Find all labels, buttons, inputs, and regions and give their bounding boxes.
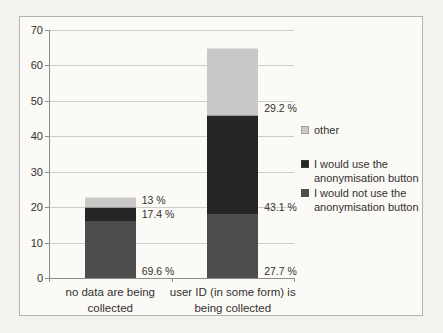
- legend-item: I would not use theanonymisation button: [301, 186, 419, 214]
- gridline: [49, 30, 294, 31]
- x-axis-tick: [294, 278, 295, 282]
- data-label: 43.1 %: [264, 201, 297, 214]
- data-label: 13 %: [142, 194, 166, 207]
- legend-label: I would not use theanonymisation button: [314, 186, 419, 214]
- y-tick-label: 10: [21, 237, 43, 249]
- category-label-line: user ID (in some form) is: [158, 285, 308, 301]
- bar-segment: [85, 221, 136, 278]
- bar-segment: [85, 197, 136, 208]
- y-axis: [49, 30, 50, 278]
- bar-segment: [207, 115, 258, 214]
- y-tick-label: 70: [21, 24, 43, 36]
- data-label: 17.4 %: [142, 208, 175, 221]
- y-tick-label: 30: [21, 166, 43, 178]
- chart-frame: 01020304050607069.6 %17.4 %13 %no data a…: [19, 16, 423, 316]
- legend-label: other: [314, 123, 339, 137]
- bar-segment: [85, 207, 136, 221]
- y-tick-label: 50: [21, 95, 43, 107]
- legend-item: I would use theanonymisation button: [301, 157, 419, 185]
- page: 01020304050607069.6 %17.4 %13 %no data a…: [0, 0, 443, 333]
- legend-swatch-icon: [301, 160, 309, 168]
- legend-swatch-icon: [301, 126, 309, 134]
- bar-segment: [207, 48, 258, 115]
- legend-label: I would use theanonymisation button: [314, 157, 419, 185]
- legend: otherI would use theanonymisation button…: [301, 17, 439, 315]
- category-label-line: being collected: [158, 301, 308, 317]
- legend-item: other: [301, 123, 339, 137]
- data-label: 69.6 %: [142, 265, 175, 278]
- x-axis-tick: [172, 278, 173, 282]
- y-tick-label: 60: [21, 59, 43, 71]
- category-label: user ID (in some form) isbeing collected: [158, 285, 308, 316]
- y-tick-label: 0: [21, 272, 43, 284]
- data-label: 27.7 %: [264, 265, 297, 278]
- bar-segment: [207, 214, 258, 278]
- legend-swatch-icon: [301, 189, 309, 197]
- x-axis-tick: [49, 278, 50, 282]
- y-tick-label: 20: [21, 201, 43, 213]
- data-label: 29.2 %: [264, 102, 297, 115]
- y-tick-label: 40: [21, 130, 43, 142]
